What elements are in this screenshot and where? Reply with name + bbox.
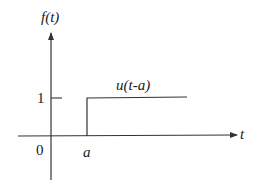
curve-label: u(t-a) xyxy=(116,77,150,94)
step-function-diagram: f(t) t 0 a 1 u(t-a) xyxy=(0,0,264,192)
shift-label: a xyxy=(83,144,91,160)
step-curve xyxy=(87,97,187,136)
diagram-canvas: f(t) t 0 a 1 u(t-a) xyxy=(0,0,264,192)
x-axis-label: t xyxy=(240,126,245,142)
origin-label: 0 xyxy=(36,142,44,158)
level-label: 1 xyxy=(37,90,45,106)
y-axis-label: f(t) xyxy=(41,9,59,26)
